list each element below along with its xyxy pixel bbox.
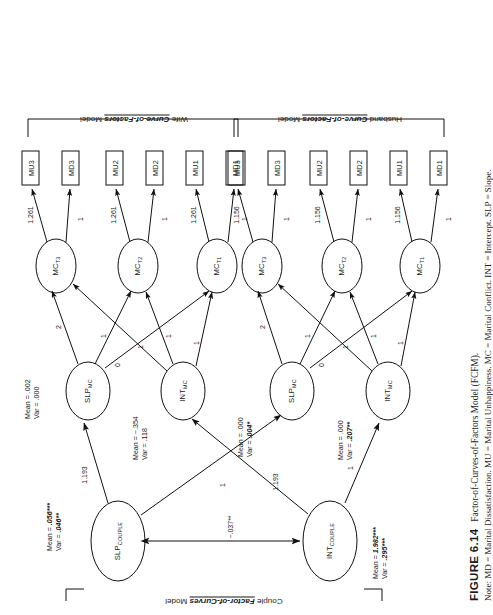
path-label-slpcouple-wifeslp: 1.193 <box>81 466 88 484</box>
path-label-husb-int-t2: 1 <box>370 334 377 338</box>
path-label-wife-md2-loading: 1 <box>161 217 168 221</box>
path-label-couple-covariance: −.037** <box>227 515 234 538</box>
edge-husb-mct2-mu2 <box>320 189 334 242</box>
path-label-wife-md1-loading: 1 <box>241 217 248 221</box>
group-label-couple: Couple Factor-of-Curves Model <box>165 597 282 606</box>
edge-wife-mct2-md2 <box>148 189 154 242</box>
node-label-slp-couple: SLPCOUPLE <box>113 522 124 560</box>
edge-wife-mct2-mu2 <box>116 189 130 242</box>
edge-husb-int-mct2 <box>350 292 378 364</box>
edge-wife-mct3-mu3 <box>32 189 47 242</box>
node-label-husb-slp-mc: SLPMC <box>287 379 298 403</box>
edge-husb-mct1-md1 <box>431 189 438 242</box>
figure-title: Factor-of-Curves-of-Factors Model (FCFM)… <box>470 353 480 522</box>
indicator-label-wife-mu1: MU1 <box>191 160 200 176</box>
path-label-wife-mu2-loading: 1.261 <box>110 206 117 224</box>
path-label-husb-md2-loading: 1 <box>365 217 372 221</box>
edge-wife-mct1-mu1 <box>196 189 209 242</box>
indicator-label-husb-mu1: MU1 <box>395 160 404 176</box>
group-label-husband: Husband Curve-of-Factors Model <box>278 115 402 124</box>
indicator-label-husb-mu2: MU2 <box>315 160 324 176</box>
path-label-husb-slope-t1: 0 <box>318 363 325 367</box>
path-label-husb-md1-loading: 1 <box>445 217 452 221</box>
figure-note: Note: MD = Marital Dissatisfaction. MU =… <box>483 1 493 601</box>
edge-husb-slp-mct1 <box>310 291 412 368</box>
edge-slpcouple-wifeslp <box>84 423 108 503</box>
stats-wife-slp-mc: Mean = .002 Var = .000 <box>24 379 42 419</box>
indicator-label-wife-md3: MD3 <box>67 160 76 176</box>
path-label-wife-slope-t2: 1 <box>100 334 107 338</box>
path-label-intcouple-wifeint: 1.193 <box>272 473 279 491</box>
node-label-wife-mc-t1: MCT1 <box>212 257 223 276</box>
path-label-husb-mu1-loading: 1.156 <box>394 206 401 224</box>
path-label-husb-int-t1: 1 <box>397 341 404 345</box>
node-label-wife-slp-mc: SLPMC <box>83 379 94 403</box>
node-label-wife-mc-t2: MCT2 <box>133 257 144 276</box>
edge-husb-int-mct3 <box>278 284 372 371</box>
stats-wife-int-mc: Mean = −.354 Var = .118 <box>132 416 150 460</box>
edge-husb-mct3-mu3 <box>238 189 253 242</box>
path-label-husb-mu3-loading: 1.156 <box>233 206 240 224</box>
path-label-wife-md3-loading: 1 <box>77 217 84 221</box>
node-label-husb-mc-t1: MCT1 <box>415 257 426 276</box>
node-label-husb-int-mc: INTMC <box>383 380 394 402</box>
path-label-wife-mu3-loading: 1.261 <box>27 206 34 224</box>
edge-husb-mct1-mu1 <box>400 189 412 242</box>
edge-wife-mct3-md3 <box>66 189 70 242</box>
edge-husb-mct2-md2 <box>352 189 358 242</box>
path-label-wife-int-t3: 1 <box>137 345 144 349</box>
indicator-label-wife-mu2: MU2 <box>111 160 120 176</box>
indicator-label-wife-mu3: MU3 <box>27 160 36 176</box>
stats-husb-slp-mc: Mean = .000 Var = .004* <box>237 417 255 457</box>
edge-slpcouple-husbslp <box>141 415 281 515</box>
edge-husb-int-mct1 <box>401 292 415 366</box>
path-label-wife-int-t1: 1 <box>193 341 200 345</box>
figure-caption-title-line: FIGURE 6.14 Factor-of-Curves-of-Factors … <box>468 1 480 601</box>
edge-wife-int-mct3 <box>73 284 167 371</box>
indicator-label-wife-md2: MD2 <box>151 160 160 176</box>
path-label-husb-md3-loading: 1 <box>283 217 290 221</box>
edge-husb-mct3-md3 <box>272 189 276 242</box>
group-label-wife: Wife Curve-of-Factors Model <box>80 115 188 124</box>
stats-husb-int-mc: Mean = .000 Var = .207** <box>337 420 355 460</box>
indicator-label-husb-md3: MD3 <box>273 160 282 176</box>
stats-slp-couple: Mean = .056*** Var = .046** <box>46 503 64 551</box>
edge-wife-int-mct2 <box>146 292 173 364</box>
indicator-label-husb-mu3: MU3 <box>233 160 242 176</box>
path-label-wife-slope-t3: 2 <box>55 325 62 329</box>
node-label-int-couple: INTCOUPLE <box>325 523 336 559</box>
indicator-label-husb-md2: MD2 <box>355 160 364 176</box>
indicator-label-husb-md1: MD1 <box>435 160 444 176</box>
edge-wife-int-mct1 <box>196 292 212 366</box>
node-label-wife-mc-t3: MCT3 <box>51 257 62 276</box>
path-label-husb-slope-t2: 1 <box>304 334 311 338</box>
path-label-wife-int-t2: 1 <box>165 334 172 338</box>
edge-wife-slp-mct1 <box>105 291 209 368</box>
figure-number: FIGURE 6.14 <box>468 529 480 601</box>
path-label-intcouple-husbint: 1 <box>347 466 354 470</box>
path-label-husb-slope-t3: 2 <box>259 325 266 329</box>
path-label-husb-mu2-loading: 1.156 <box>314 206 321 224</box>
stats-int-couple: Mean = 1.982*** Var = .295*** <box>372 527 390 579</box>
node-label-husb-mc-t2: MCT2 <box>337 257 348 276</box>
node-label-wife-int-mc: INTMC <box>178 380 189 402</box>
path-label-slpcouple-husbslp: 1 <box>219 483 226 487</box>
path-label-husb-int-t3: 1 <box>342 345 349 349</box>
path-label-wife-slope-t1: 0 <box>114 363 121 367</box>
node-label-husb-mc-t3: MCT3 <box>257 257 268 276</box>
figure-caption: FIGURE 6.14 Factor-of-Curves-of-Factors … <box>468 1 493 601</box>
path-label-wife-mu1-loading: 1.261 <box>190 206 197 224</box>
